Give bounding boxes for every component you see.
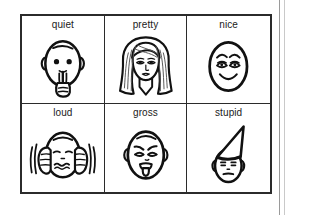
card-cell-gross[interactable]: gross bbox=[105, 104, 188, 192]
card-cell-pretty[interactable]: pretty bbox=[105, 16, 188, 104]
card-label-gross: gross bbox=[133, 107, 158, 118]
face-dunce-cap-icon bbox=[187, 118, 270, 192]
page-scan-edge-line bbox=[279, 0, 280, 215]
face-shushing-finger-to-lips-icon bbox=[22, 30, 104, 103]
face-smiling-happy-eyes-icon bbox=[187, 30, 270, 103]
card-cell-nice[interactable]: nice bbox=[187, 16, 270, 104]
card-label-nice: nice bbox=[219, 19, 238, 30]
card-cell-stupid[interactable]: stupid bbox=[187, 104, 270, 192]
card-label-pretty: pretty bbox=[133, 19, 159, 30]
card-label-quiet: quiet bbox=[52, 19, 74, 30]
card-label-stupid: stupid bbox=[215, 107, 242, 118]
page-scan-edge-line-secondary bbox=[284, 0, 285, 215]
card-label-loud: loud bbox=[53, 107, 72, 118]
card-cell-loud[interactable]: loud bbox=[22, 104, 105, 192]
face-woman-long-hair-icon bbox=[105, 30, 187, 103]
face-tongue-out-disgust-icon bbox=[105, 118, 187, 192]
picture-card-grid: quiet bbox=[20, 14, 272, 194]
face-hands-covering-ears-icon bbox=[22, 118, 104, 192]
card-cell-quiet[interactable]: quiet bbox=[22, 16, 105, 104]
